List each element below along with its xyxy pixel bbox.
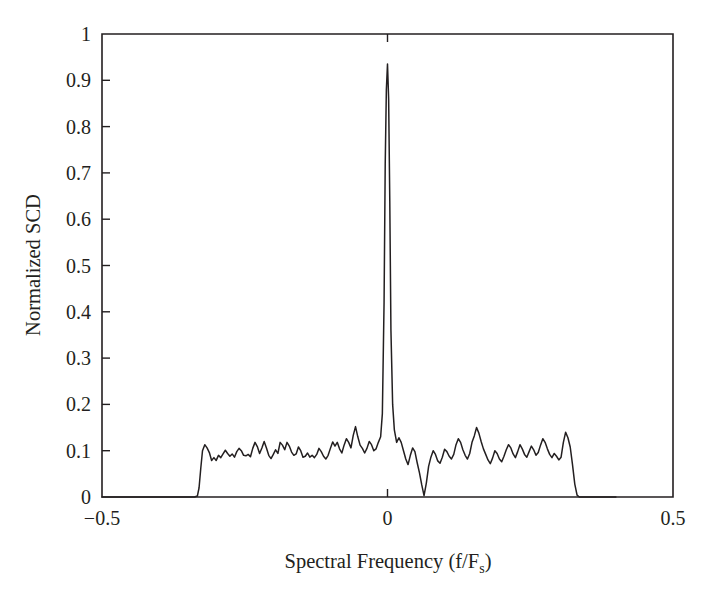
x-axis-tick-labels: −0.500.5 bbox=[84, 507, 686, 529]
x-axis-title: Spectral Frequency (f/Fs) bbox=[285, 550, 492, 576]
x-tick-label: −0.5 bbox=[84, 507, 120, 529]
y-tick-label: 0.5 bbox=[66, 255, 91, 277]
y-tick-label: 0.2 bbox=[66, 393, 91, 415]
y-tick-label: 0.7 bbox=[66, 162, 91, 184]
chart-figure: 00.10.20.30.40.50.60.70.80.91 −0.500.5 S… bbox=[0, 0, 712, 591]
y-tick-label: 0.4 bbox=[66, 301, 91, 323]
y-tick-label: 0.8 bbox=[66, 116, 91, 138]
y-axis-ticks bbox=[102, 80, 110, 450]
x-tick-label: 0 bbox=[383, 507, 393, 529]
y-tick-label: 1 bbox=[81, 23, 91, 45]
y-tick-label: 0.9 bbox=[66, 69, 91, 91]
scd-trace bbox=[102, 64, 616, 497]
y-tick-label: 0.6 bbox=[66, 208, 91, 230]
spectral-scd-plot: 00.10.20.30.40.50.60.70.80.91 −0.500.5 S… bbox=[0, 0, 712, 591]
x-tick-label: 0.5 bbox=[661, 507, 686, 529]
axes-frame bbox=[102, 34, 673, 497]
y-tick-label: 0.1 bbox=[66, 440, 91, 462]
y-axis-title: Normalized SCD bbox=[22, 194, 44, 336]
y-axis-tick-labels: 00.10.20.30.40.50.60.70.80.91 bbox=[66, 23, 91, 508]
y-tick-label: 0 bbox=[81, 486, 91, 508]
y-tick-label: 0.3 bbox=[66, 347, 91, 369]
